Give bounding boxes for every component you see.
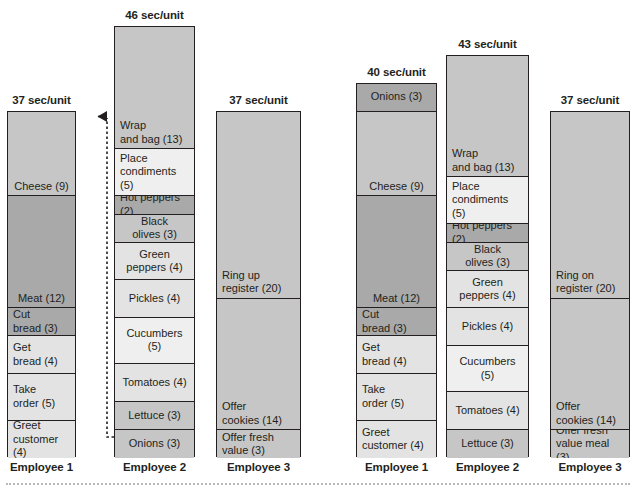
bar-segment-label: Black olives (3) <box>120 215 189 242</box>
bar-total-label: 46 sec/unit <box>125 9 183 21</box>
bar-stack: Ring on register (20)Offer cookies (14)O… <box>550 111 630 457</box>
bar-segment-label: Cut bread (3) <box>13 308 70 335</box>
bar-column-before-2: 46 sec/unitWrap and bag (13)Place condim… <box>114 26 195 457</box>
bar-segment: Wrap and bag (13) <box>115 27 194 149</box>
bar-total-label: 37 sec/unit <box>561 94 619 106</box>
bar-segment-label: Place condiments (5) <box>120 152 189 192</box>
bar-segment-label: Cucumbers (5) <box>452 355 523 382</box>
bar-segment-label: Offer fresh value (3) <box>222 431 295 458</box>
bar-segment-label: Onions (3) <box>362 90 431 103</box>
bar-stack: Wrap and bag (13)Place condiments (5)Hot… <box>114 26 195 457</box>
bar-segment: Offer cookies (14) <box>217 299 300 430</box>
bar-segment: Take order (5) <box>8 374 75 421</box>
bar-segment-label: Take order (5) <box>13 383 70 410</box>
bar-segment: Onions (3) <box>357 84 436 112</box>
bar-segment: Place condiments (5) <box>447 177 528 224</box>
bar-segment-label: Green peppers (4) <box>452 276 523 303</box>
bar-segment-label: Pickles (4) <box>452 320 523 333</box>
bar-total-label: 37 sec/unit <box>12 94 70 106</box>
bar-segment: Cut bread (3) <box>8 308 75 336</box>
bar-segment: Ring on register (20) <box>551 112 629 299</box>
bar-segment: Cucumbers (5) <box>115 318 194 365</box>
employee-label: Employee 3 <box>227 461 290 473</box>
stacked-bar-chart-canvas: 37 sec/unitCheese (9)Meat (12)Cut bread … <box>0 0 634 489</box>
employee-label: Employee 2 <box>123 461 186 473</box>
bar-segment: Pickles (4) <box>447 308 528 345</box>
bar-segment: Offer fresh value meal (3) <box>551 430 629 458</box>
bar-total-label: 40 sec/unit <box>367 66 425 78</box>
bar-segment: Black olives (3) <box>447 243 528 271</box>
bar-segment-label: Cheese (9) <box>362 180 431 193</box>
bar-segment-label: Lettuce (3) <box>452 437 523 450</box>
bar-segment-label: Ring up register (20) <box>222 269 295 296</box>
bar-segment: Black olives (3) <box>115 215 194 243</box>
bar-segment-label: Wrap and bag (13) <box>120 119 189 146</box>
bar-segment-label: Hot peppers (2) <box>120 196 189 215</box>
bar-segment-label: Tomatoes (4) <box>120 376 189 389</box>
bar-segment: Lettuce (3) <box>447 430 528 458</box>
bar-segment-label: Get bread (4) <box>13 341 70 368</box>
bar-segment: Take order (5) <box>357 374 436 421</box>
bar-segment: Hot peppers (2) <box>447 224 528 243</box>
bar-segment: Hot peppers (2) <box>115 196 194 215</box>
bar-segment-label: Greet customer (4) <box>13 421 70 458</box>
bar-column-before-3: 37 sec/unitRing up register (20)Offer co… <box>216 111 301 457</box>
bar-stack: Cheese (9)Meat (12)Cut bread (3)Get brea… <box>7 111 76 457</box>
bar-segment-label: Meat (12) <box>13 292 70 305</box>
bar-segment: Place condiments (5) <box>115 149 194 196</box>
bar-segment-label: Take order (5) <box>362 383 431 410</box>
bar-segment: Greet customer (4) <box>357 421 436 458</box>
bar-segment-label: Meat (12) <box>362 292 431 305</box>
bar-segment: Offer cookies (14) <box>551 299 629 430</box>
bar-segment: Tomatoes (4) <box>115 364 194 401</box>
employee-label: Employee 2 <box>456 461 519 473</box>
bar-segment-label: Lettuce (3) <box>120 409 189 422</box>
bar-segment-label: Offer cookies (14) <box>222 400 295 427</box>
bar-segment-label: Offer fresh value meal (3) <box>556 430 624 458</box>
bar-segment-label: Cut bread (3) <box>362 308 431 335</box>
bar-segment-label: Ring on register (20) <box>556 269 624 296</box>
bar-segment-label: Green peppers (4) <box>120 248 189 275</box>
bar-total-label: 37 sec/unit <box>229 94 287 106</box>
bar-stack: Ring up register (20)Offer cookies (14)O… <box>216 111 301 457</box>
bottom-dotted-rule <box>6 483 630 485</box>
bar-segment-label: Wrap and bag (13) <box>452 147 523 174</box>
bar-segment-label: Offer cookies (14) <box>556 400 624 427</box>
bar-segment-label: Place condiments (5) <box>452 180 523 220</box>
bar-segment: Cheese (9) <box>357 112 436 196</box>
bar-column-after-2: 43 sec/unitWrap and bag (13)Place condim… <box>446 55 529 457</box>
bar-segment-label: Tomatoes (4) <box>452 404 523 417</box>
bar-segment-label: Cucumbers (5) <box>120 327 189 354</box>
bar-segment: Ring up register (20) <box>217 112 300 299</box>
bar-segment-label: Greet customer (4) <box>362 426 431 453</box>
bar-column-after-3: 37 sec/unitRing on register (20)Offer co… <box>550 111 630 457</box>
bar-segment-label: Hot peppers (2) <box>452 224 523 243</box>
bar-segment: Get bread (4) <box>357 336 436 373</box>
bar-stack: Wrap and bag (13)Place condiments (5)Hot… <box>446 55 529 457</box>
bar-segment: Greet customer (4) <box>8 421 75 458</box>
bar-segment: Meat (12) <box>8 196 75 308</box>
bar-segment: Green peppers (4) <box>447 271 528 308</box>
bar-total-label: 43 sec/unit <box>458 38 516 50</box>
employee-label: Employee 3 <box>559 461 622 473</box>
bar-segment: Get bread (4) <box>8 336 75 373</box>
bar-segment: Meat (12) <box>357 196 436 308</box>
bar-column-after-1: 40 sec/unitOnions (3)Cheese (9)Meat (12)… <box>356 83 437 457</box>
bar-segment-label: Cheese (9) <box>13 180 70 193</box>
bar-segment: Green peppers (4) <box>115 243 194 280</box>
bar-stack: Onions (3)Cheese (9)Meat (12)Cut bread (… <box>356 83 437 457</box>
bar-segment: Offer fresh value (3) <box>217 430 300 458</box>
bar-segment: Cucumbers (5) <box>447 346 528 393</box>
bar-segment-label: Onions (3) <box>120 437 189 450</box>
bar-column-before-1: 37 sec/unitCheese (9)Meat (12)Cut bread … <box>7 111 76 457</box>
bar-segment-label: Black olives (3) <box>452 243 523 270</box>
bar-segment-label: Get bread (4) <box>362 341 431 368</box>
bar-segment: Onions (3) <box>115 430 194 458</box>
bar-segment: Cheese (9) <box>8 112 75 196</box>
bar-segment: Tomatoes (4) <box>447 392 528 429</box>
employee-label: Employee 1 <box>365 461 428 473</box>
bar-segment: Lettuce (3) <box>115 402 194 430</box>
bar-segment: Pickles (4) <box>115 280 194 317</box>
bar-segment: Cut bread (3) <box>357 308 436 336</box>
bar-segment-label: Pickles (4) <box>120 292 189 305</box>
